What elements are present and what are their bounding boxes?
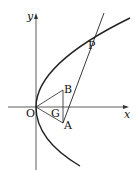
- point-label-b: B: [64, 84, 72, 95]
- y-axis-arrow-icon: [34, 13, 38, 19]
- point-label-g: G: [51, 108, 60, 119]
- diagram-canvas: y x O B G A P: [0, 0, 138, 172]
- x-axis-label: x: [124, 109, 130, 120]
- line-ap: [63, 13, 104, 123]
- point-label-p: P: [88, 40, 95, 51]
- segment-ob: [36, 90, 63, 107]
- y-axis-label: y: [27, 11, 33, 22]
- point-label-o: O: [26, 108, 35, 119]
- parabola-curve: [36, 18, 130, 166]
- point-label-a: A: [64, 120, 72, 131]
